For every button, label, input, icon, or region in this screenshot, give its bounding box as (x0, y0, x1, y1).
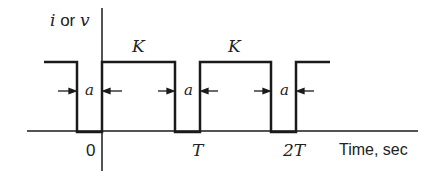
amplitude-label-1: K (132, 38, 145, 55)
y-var-voltage: v (80, 10, 90, 30)
tick-label-T: T (192, 142, 203, 159)
gap-label-1: a (85, 83, 94, 98)
y-label-separator: or (55, 11, 80, 30)
gap-label-3: a (280, 83, 289, 98)
tick-label-2T: 2T (283, 142, 305, 159)
tick-label-zero: 0 (86, 142, 95, 159)
x-axis-label: Time, sec (339, 142, 408, 158)
pulse-train-diagram: i or v K K a a a 0 T 2T Time, sec (0, 0, 436, 171)
gap-label-2: a (184, 83, 193, 98)
amplitude-label-2: K (228, 38, 241, 55)
y-axis-label: i or v (50, 12, 90, 29)
